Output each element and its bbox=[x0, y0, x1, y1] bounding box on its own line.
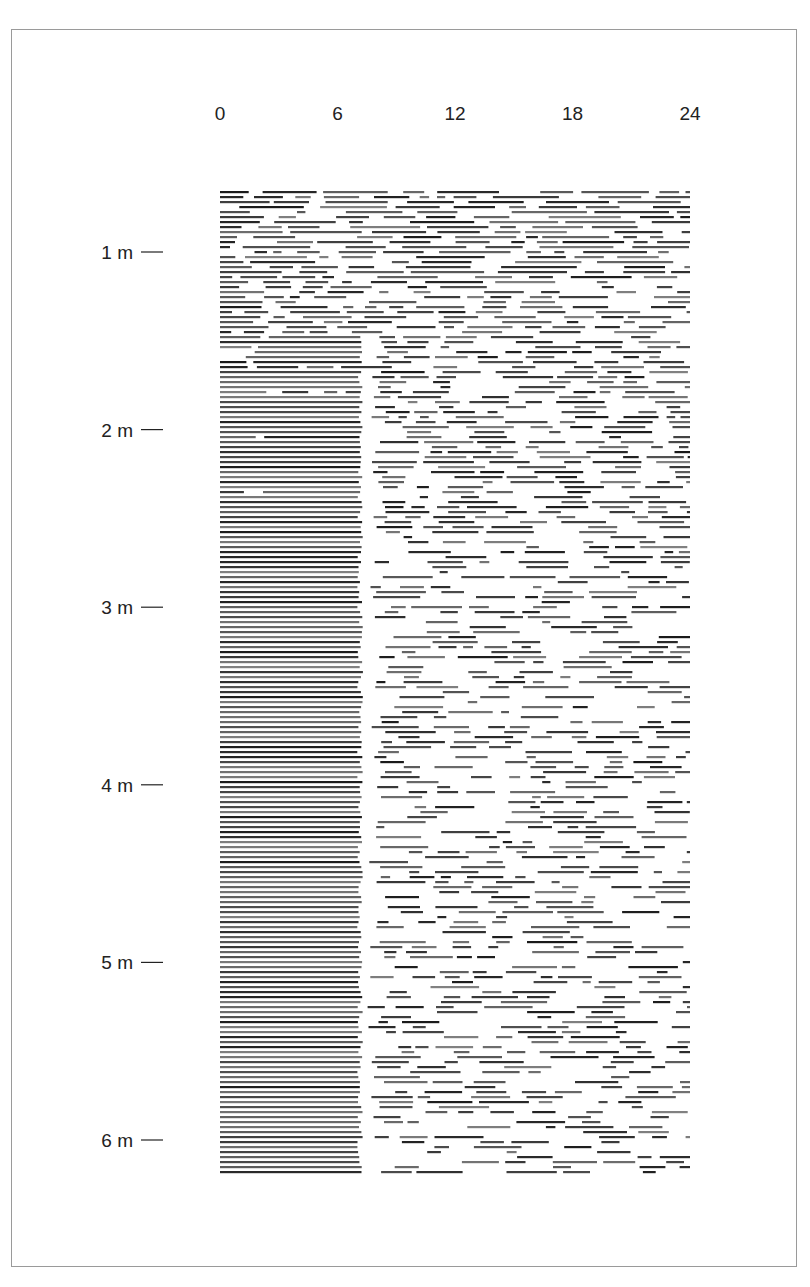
sleep-bar bbox=[220, 416, 359, 418]
sleep-bar bbox=[501, 1026, 542, 1028]
sleep-bar bbox=[220, 766, 361, 768]
sleep-bar bbox=[676, 476, 690, 478]
sleep-bar bbox=[381, 776, 420, 778]
sleep-bar bbox=[527, 756, 536, 758]
sleep-bar bbox=[588, 526, 617, 528]
sleep-bar bbox=[319, 256, 328, 258]
sleep-bar bbox=[526, 236, 538, 238]
sleep-bar bbox=[220, 361, 246, 363]
sleep-bar bbox=[466, 851, 497, 853]
sleep-bar bbox=[495, 281, 555, 283]
sleep-bar bbox=[490, 1111, 514, 1113]
sleep-bar bbox=[666, 1161, 684, 1163]
sleep-bar bbox=[512, 811, 545, 813]
sleep-bar bbox=[454, 741, 489, 743]
sleep-bar bbox=[488, 946, 498, 948]
sleep-bar bbox=[431, 451, 443, 453]
sleep-bar bbox=[493, 196, 559, 198]
sleep-bar bbox=[220, 881, 361, 883]
sleep-bar bbox=[246, 356, 360, 358]
sleep-bar bbox=[647, 806, 663, 808]
sleep-bar bbox=[326, 201, 388, 203]
sleep-bar bbox=[570, 721, 582, 723]
sleep-bar bbox=[627, 681, 670, 683]
sleep-bar bbox=[496, 881, 535, 883]
sleep-bar bbox=[543, 936, 563, 938]
sleep-bar bbox=[377, 526, 413, 528]
sleep-bar bbox=[372, 416, 390, 418]
sleep-bar bbox=[220, 681, 358, 683]
sleep-bar bbox=[534, 981, 568, 983]
sleep-bar bbox=[239, 206, 303, 208]
sleep-bar bbox=[643, 1171, 656, 1173]
sleep-bar bbox=[660, 686, 690, 688]
sleep-bar bbox=[647, 756, 666, 758]
sleep-bar bbox=[516, 1121, 565, 1123]
sleep-bar bbox=[220, 906, 359, 908]
sleep-bar bbox=[669, 441, 691, 443]
sleep-bar bbox=[435, 401, 460, 403]
sleep-bar bbox=[515, 391, 555, 393]
sleep-bar bbox=[686, 481, 690, 483]
sleep-bar bbox=[387, 671, 422, 673]
sleep-bar bbox=[659, 996, 672, 998]
sleep-bar bbox=[220, 1156, 359, 1158]
sleep-bar bbox=[559, 481, 584, 483]
sleep-bar bbox=[371, 281, 407, 283]
sleep-bar bbox=[303, 316, 352, 318]
sleep-bar bbox=[540, 246, 614, 248]
x-tick-label: 6 bbox=[332, 103, 343, 124]
sleep-bar bbox=[220, 546, 362, 548]
sleep-bar bbox=[649, 501, 687, 503]
sleep-bar bbox=[220, 346, 251, 348]
sleep-bar bbox=[561, 521, 606, 523]
sleep-bar bbox=[484, 1006, 532, 1008]
sleep-bar bbox=[521, 716, 559, 718]
sleep-bar bbox=[352, 331, 382, 333]
sleep-bar bbox=[650, 766, 682, 768]
sleep-bar bbox=[220, 1161, 359, 1163]
sleep-bar bbox=[632, 781, 642, 783]
sleep-bar bbox=[406, 266, 471, 268]
sleep-bar bbox=[603, 1161, 635, 1163]
sleep-bar bbox=[382, 361, 411, 363]
sleep-bar bbox=[545, 696, 594, 698]
sleep-bar bbox=[684, 696, 690, 698]
sleep-bar bbox=[220, 421, 360, 423]
sleep-bar bbox=[220, 616, 362, 618]
sleep-bar bbox=[680, 1081, 690, 1083]
sleep-bar bbox=[375, 451, 419, 453]
sleep-bar bbox=[669, 421, 690, 423]
sleep-bar bbox=[507, 1171, 557, 1173]
sleep-bar bbox=[640, 1166, 666, 1168]
sleep-bar bbox=[600, 391, 611, 393]
sleep-bar bbox=[220, 901, 362, 903]
sleep-bar bbox=[482, 306, 506, 308]
sleep-bar bbox=[570, 576, 621, 578]
sleep-bar bbox=[562, 966, 575, 968]
sleep-bar bbox=[622, 856, 655, 858]
sleep-bar bbox=[533, 681, 544, 683]
sleep-bar bbox=[549, 431, 560, 433]
sleep-bar bbox=[584, 551, 608, 553]
sleep-bar bbox=[474, 431, 504, 433]
sleep-bar bbox=[439, 1106, 489, 1108]
sleep-bar bbox=[554, 946, 564, 948]
sleep-bar bbox=[522, 856, 568, 858]
sleep-bar bbox=[526, 251, 541, 253]
sleep-bar bbox=[254, 196, 283, 198]
sleep-bar bbox=[505, 821, 543, 823]
sleep-bar bbox=[687, 801, 690, 803]
sleep-bar bbox=[586, 451, 627, 453]
sleep-bar bbox=[220, 1051, 358, 1053]
sleep-bar bbox=[457, 1056, 502, 1058]
sleep-bar bbox=[479, 1061, 523, 1063]
sleep-bar bbox=[220, 851, 360, 853]
sleep-bar bbox=[570, 631, 586, 633]
sleep-bar bbox=[461, 866, 505, 868]
sleep-bar bbox=[651, 1066, 665, 1068]
sleep-bar bbox=[378, 821, 426, 823]
sleep-bar bbox=[383, 251, 424, 253]
sleep-bar bbox=[501, 1001, 547, 1003]
sleep-bar bbox=[220, 831, 359, 833]
